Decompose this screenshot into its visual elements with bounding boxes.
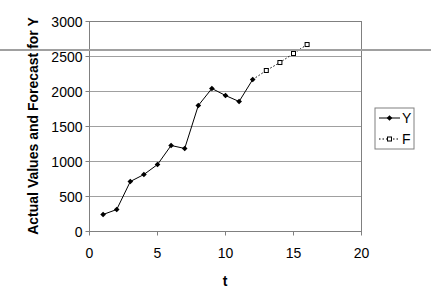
square-marker-icon	[388, 137, 392, 141]
y-tick-label: 2000	[51, 84, 82, 100]
legend: Y F	[375, 108, 414, 149]
y-axis-ticks: 050010001500200025003000	[51, 14, 89, 240]
diamond-marker-icon	[236, 99, 242, 105]
y-tick-label: 3000	[51, 14, 82, 30]
y-tick-label: 500	[59, 189, 83, 205]
series-line-y	[103, 80, 253, 215]
diamond-marker-icon	[223, 93, 229, 99]
x-tick-label: 5	[154, 245, 162, 261]
diamond-marker-icon	[114, 207, 120, 213]
square-marker-icon	[305, 43, 309, 47]
x-tick-label: 15	[286, 245, 302, 261]
square-marker-icon	[264, 69, 268, 73]
legend-label: F	[402, 131, 411, 147]
legend-label: Y	[402, 110, 412, 126]
line-chart: 050010001500200025003000 05101520 t Actu…	[0, 0, 431, 299]
gridlines	[90, 57, 362, 197]
y-tick-label: 0	[75, 224, 83, 240]
diamond-marker-icon	[100, 212, 106, 218]
diamond-marker-icon	[182, 146, 188, 152]
square-marker-icon	[278, 61, 282, 65]
diamond-marker-icon	[127, 179, 133, 185]
x-tick-label: 0	[86, 245, 94, 261]
series-group	[100, 43, 309, 218]
x-tick-label: 20	[354, 245, 370, 261]
horizontal-divider-line	[0, 49, 431, 51]
square-marker-icon	[292, 51, 296, 55]
x-tick-label: 10	[218, 245, 234, 261]
x-axis-title: t	[223, 273, 228, 289]
y-tick-label: 1500	[51, 119, 82, 135]
x-axis-ticks: 05101520	[86, 232, 370, 261]
y-tick-label: 1000	[51, 154, 82, 170]
